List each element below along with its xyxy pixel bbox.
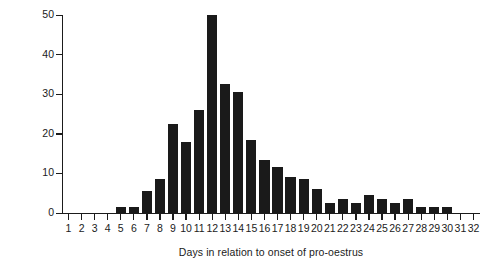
x-axis-tick	[421, 214, 422, 220]
histogram-bar	[325, 203, 335, 213]
histogram-bar	[194, 110, 204, 213]
y-axis-tick-label-text: 10	[32, 167, 54, 178]
histogram-bar	[233, 92, 243, 213]
x-axis-tick	[185, 214, 186, 220]
plot-area	[62, 15, 480, 213]
histogram-bar	[285, 177, 295, 213]
x-axis-title: Days in relation to onset of pro-oestrus	[62, 246, 480, 258]
histogram-bar	[220, 84, 230, 213]
y-axis-tick-label-text: 30	[32, 88, 54, 99]
histogram-bar	[129, 207, 139, 213]
histogram-bar	[142, 191, 152, 213]
y-axis-tick-label: 20	[28, 128, 54, 139]
histogram-bar	[403, 199, 413, 213]
x-axis-tick	[68, 214, 69, 220]
histogram-chart: Number of pregnancies 01020304050 123456…	[0, 0, 501, 271]
y-axis-tick-label: 50	[28, 9, 54, 20]
x-axis-tick	[290, 214, 291, 220]
x-axis-tick	[199, 214, 200, 220]
x-axis-tick	[394, 214, 395, 220]
x-axis-tick	[146, 214, 147, 220]
x-axis-tick	[368, 214, 369, 220]
x-axis-tick	[251, 214, 252, 220]
y-axis-tick-label: 10	[28, 167, 54, 178]
histogram-bar	[259, 160, 269, 213]
histogram-bar	[168, 124, 178, 213]
histogram-bar	[377, 199, 387, 213]
x-axis-tick	[94, 214, 95, 220]
y-axis-tick-label-text: 20	[32, 128, 54, 139]
x-axis-tick	[212, 214, 213, 220]
y-axis-tick-label: 40	[28, 49, 54, 60]
x-axis-tick	[107, 214, 108, 220]
histogram-bar	[351, 203, 361, 213]
x-axis-tick	[159, 214, 160, 220]
histogram-bar	[442, 207, 452, 213]
x-axis-tick	[316, 214, 317, 220]
x-axis-tick	[473, 214, 474, 220]
x-axis-tick	[238, 214, 239, 220]
x-axis-tick-label: 32	[463, 222, 483, 234]
histogram-bar	[416, 207, 426, 213]
x-axis-tick	[225, 214, 226, 220]
histogram-bar	[246, 140, 256, 213]
histogram-bar	[272, 167, 282, 213]
x-axis-tick	[329, 214, 330, 220]
x-axis-tick	[172, 214, 173, 220]
x-axis-tick	[381, 214, 382, 220]
x-axis-tick	[277, 214, 278, 220]
x-axis-tick	[81, 214, 82, 220]
histogram-bar	[364, 195, 374, 213]
histogram-bar	[207, 15, 217, 213]
histogram-bar	[116, 207, 126, 213]
x-axis-tick	[460, 214, 461, 220]
x-axis-tick	[355, 214, 356, 220]
y-axis-tick-label: 30	[28, 88, 54, 99]
y-axis-tick-label-text: 50	[32, 9, 54, 20]
x-axis-tick	[120, 214, 121, 220]
histogram-bar	[429, 207, 439, 213]
histogram-bar	[338, 199, 348, 213]
histogram-bar	[299, 179, 309, 213]
y-axis-tick-label-text: 0	[32, 207, 54, 218]
x-axis-tick	[303, 214, 304, 220]
histogram-bar	[312, 189, 322, 213]
x-axis-tick	[447, 214, 448, 220]
y-axis-tick-label: 0	[28, 207, 54, 218]
x-axis-tick	[342, 214, 343, 220]
x-axis-tick	[434, 214, 435, 220]
x-axis-line	[62, 213, 480, 214]
x-axis-tick	[133, 214, 134, 220]
y-axis-tick-label-text: 40	[32, 49, 54, 60]
histogram-bar	[155, 179, 165, 213]
histogram-bar	[390, 203, 400, 213]
histogram-bar	[181, 142, 191, 213]
x-axis-tick	[408, 214, 409, 220]
x-axis-tick	[264, 214, 265, 220]
